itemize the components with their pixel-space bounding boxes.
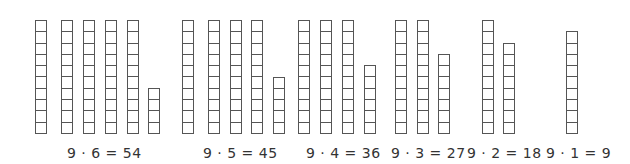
unit-column bbox=[438, 54, 450, 134]
unit-column bbox=[566, 31, 578, 134]
ten-column bbox=[35, 20, 47, 134]
equation-label: 9 · 5 = 45 bbox=[203, 145, 278, 161]
ten-column bbox=[83, 20, 95, 134]
unit-cell bbox=[61, 122, 73, 134]
ten-column bbox=[298, 20, 310, 134]
unit-cell bbox=[182, 122, 194, 134]
unit-column bbox=[148, 88, 160, 134]
unit-cell bbox=[208, 122, 220, 134]
unit-cell bbox=[230, 122, 242, 134]
ten-column bbox=[182, 20, 194, 134]
ten-column bbox=[320, 20, 332, 134]
equation-label: 9 · 6 = 54 bbox=[67, 145, 142, 161]
unit-cell bbox=[251, 122, 263, 134]
unit-cell bbox=[273, 122, 285, 134]
unit-cell bbox=[320, 122, 332, 134]
unit-cell bbox=[148, 122, 160, 134]
unit-cell bbox=[364, 122, 376, 134]
multiplication-diagram: 9 · 6 = 54 9 · 5 = 45 9 · 4 = 36 9 · 3 =… bbox=[0, 0, 630, 164]
unit-cell bbox=[417, 122, 429, 134]
unit-cell bbox=[127, 122, 139, 134]
unit-cell bbox=[395, 122, 407, 134]
unit-column bbox=[273, 77, 285, 134]
unit-cell bbox=[566, 122, 578, 134]
ten-column bbox=[61, 20, 73, 134]
unit-cell bbox=[503, 122, 515, 134]
ten-column bbox=[395, 20, 407, 134]
unit-cell bbox=[105, 122, 117, 134]
equation-label: 9 · 3 = 27 bbox=[391, 145, 466, 161]
ten-column bbox=[127, 20, 139, 134]
ten-column bbox=[251, 20, 263, 134]
ten-column bbox=[482, 20, 494, 134]
ten-column bbox=[105, 20, 117, 134]
ten-column bbox=[208, 20, 220, 134]
unit-cell bbox=[482, 122, 494, 134]
ten-column bbox=[230, 20, 242, 134]
ten-column bbox=[417, 20, 429, 134]
equation-label: 9 · 2 = 18 bbox=[467, 145, 542, 161]
unit-cell bbox=[35, 122, 47, 134]
ten-column bbox=[342, 20, 354, 134]
equation-label: 9 · 4 = 36 bbox=[306, 145, 381, 161]
equation-label: 9 · 1 = 9 bbox=[546, 145, 611, 161]
unit-column bbox=[364, 65, 376, 134]
unit-cell bbox=[298, 122, 310, 134]
unit-cell bbox=[342, 122, 354, 134]
unit-cell bbox=[83, 122, 95, 134]
unit-cell bbox=[438, 122, 450, 134]
unit-column bbox=[503, 43, 515, 134]
